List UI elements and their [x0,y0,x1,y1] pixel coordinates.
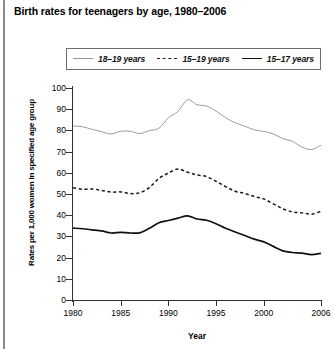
legend-label: 18–19 years [98,54,145,64]
legend-dashed-swatch-icon [157,56,177,62]
series-lines [73,88,321,300]
y-tick-label: 30 [38,231,66,241]
legend-item-15-19: 15–19 years [157,54,229,64]
y-tick-label: 20 [38,253,66,263]
plot-area [73,88,321,300]
x-tick-mark [73,300,74,306]
y-tick-label: 100 [38,83,66,93]
chart-figure: Birth rates for teenagers by age, 1980–2… [0,0,335,349]
y-tick-label: 10 [38,274,66,284]
chart-title: Birth rates for teenagers by age, 1980–2… [14,5,326,17]
y-tick-label: 0 [38,295,66,305]
x-tick-mark [264,300,265,306]
y-tick-mark [66,152,73,153]
x-tick-label: 1995 [196,308,236,318]
y-tick-mark [66,88,73,89]
chart-legend: 18–19 years 15–19 years 15–17 years [66,48,321,70]
y-tick-label: 90 [38,104,66,114]
y-tick-mark [66,130,73,131]
x-tick-mark [321,300,322,306]
x-tick-label: 1990 [148,308,188,318]
legend-bold-swatch-icon [242,56,262,62]
y-axis-label: Rates per 1,000 women in specified age g… [27,88,36,278]
x-axis-label: Year [73,331,321,341]
x-tick-mark [121,300,122,306]
y-tick-label: 50 [38,189,66,199]
legend-line-swatch-icon [73,56,93,62]
y-tick-label: 40 [38,210,66,220]
y-tick-mark [66,279,73,280]
x-tick-label: 2000 [244,308,284,318]
y-tick-mark [66,173,73,174]
x-tick-label: 2006 [301,308,335,318]
y-tick-mark [66,300,73,301]
x-axis-line [72,300,322,301]
legend-label: 15–17 years [267,54,314,64]
y-tick-mark [66,109,73,110]
legend-label: 15–19 years [182,54,229,64]
x-tick-label: 1980 [53,308,93,318]
x-tick-mark [168,300,169,306]
page-left-rule [3,0,5,349]
series-line-18-19 [73,100,321,150]
legend-item-15-17: 15–17 years [242,54,314,64]
y-tick-mark [66,236,73,237]
y-tick-label: 80 [38,125,66,135]
y-tick-label: 70 [38,147,66,157]
y-tick-label: 60 [38,168,66,178]
y-tick-mark [66,194,73,195]
series-line-15-19 [73,169,321,214]
y-tick-mark [66,215,73,216]
series-line-15-17 [73,216,321,255]
x-tick-mark [216,300,217,306]
x-tick-label: 1985 [101,308,141,318]
y-tick-mark [66,258,73,259]
legend-item-18-19: 18–19 years [73,54,145,64]
